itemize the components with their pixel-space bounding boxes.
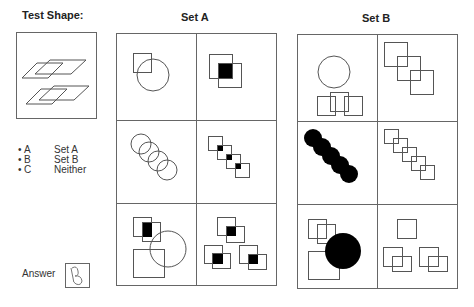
set-a-cell-4 xyxy=(209,137,250,178)
set-b-cell-4 xyxy=(385,130,435,180)
handwritten-answer-icon xyxy=(71,267,82,285)
set-b-cell-5 xyxy=(309,220,362,280)
figure-canvas xyxy=(0,0,474,307)
set-a-cell-2 xyxy=(210,55,242,88)
test-shape-parallelograms xyxy=(22,60,89,104)
set-b-cell-1 xyxy=(318,56,363,116)
set-b-cell-3 xyxy=(304,129,358,183)
test-shape-box xyxy=(17,33,97,119)
set-a-cell-1 xyxy=(134,54,170,92)
set-a-cell-3 xyxy=(131,134,177,180)
set-a-cell-6 xyxy=(205,218,267,270)
set-b-cell-6 xyxy=(384,220,448,272)
set-b-cell-2 xyxy=(385,43,434,95)
set-a-cell-5 xyxy=(134,218,187,278)
